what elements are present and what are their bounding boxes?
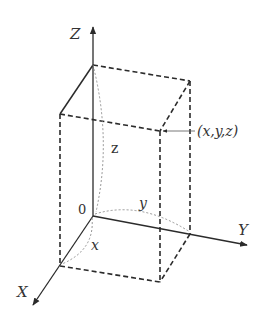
y-dimension-label: y — [138, 195, 148, 211]
z-arc — [93, 65, 103, 212]
y-axis-label: Y — [238, 221, 250, 239]
axes — [33, 27, 247, 305]
z-axis-label: Z — [69, 25, 81, 43]
box-edges — [60, 65, 190, 282]
y-arc — [95, 210, 190, 232]
z-dimension-label: z — [111, 140, 118, 156]
x-dimension-label: x — [91, 237, 99, 253]
origin-label: 0 — [78, 202, 86, 217]
coordinate-box-diagram: Z Y X 0 (x,y,z) z y x — [0, 0, 270, 321]
x-axis-label: X — [16, 283, 29, 301]
x-axis — [33, 216, 93, 305]
box-edge-top-left — [60, 65, 93, 114]
y-axis — [93, 216, 247, 245]
point-label: (x,y,z) — [197, 123, 238, 139]
